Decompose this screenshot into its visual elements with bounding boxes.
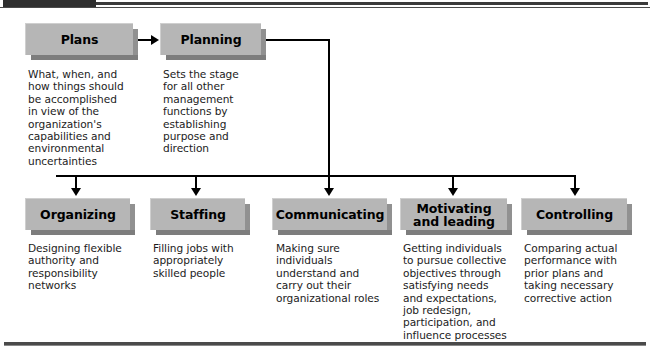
node-planning[interactable]: Planning [160, 23, 261, 55]
node-controlling[interactable]: Controlling [521, 198, 627, 230]
arrow-communicating-icon [324, 188, 334, 196]
page-header-rule [96, 2, 648, 5]
node-motivating-and-leading-description: Getting individuals to pursue collective… [403, 242, 521, 341]
node-planning-description: Sets the stage for all other management … [163, 68, 267, 155]
arrow-controlling-icon [570, 188, 580, 196]
arrow-organizing-icon [71, 188, 81, 196]
page-header-dark-block [3, 0, 96, 7]
node-staffing-label: Staffing [167, 208, 229, 221]
node-organizing-label: Organizing [37, 208, 119, 221]
arrow-motivating-icon [448, 188, 458, 196]
node-staffing-description: Filling jobs with appropriately skilled … [153, 242, 265, 279]
node-controlling-label: Controlling [533, 208, 616, 221]
node-organizing[interactable]: Organizing [25, 198, 130, 230]
node-motivating-and-leading-label: Motivating and leading [410, 202, 498, 228]
arrow-plans-to-planning-icon [151, 35, 159, 45]
node-motivating-and-leading[interactable]: Motivating and leading [400, 198, 507, 230]
node-controlling-description: Comparing actual performance with prior … [524, 242, 642, 304]
node-communicating[interactable]: Communicating [272, 198, 387, 230]
diagram-canvas: Plans Planning What, when, and how thing… [0, 0, 650, 358]
arrow-staffing-icon [191, 188, 201, 196]
page-header-hairline [0, 7, 650, 8]
node-plans[interactable]: Plans [25, 23, 133, 55]
node-plans-label: Plans [58, 33, 102, 46]
node-organizing-description: Designing flexible authority and respons… [28, 242, 148, 292]
node-communicating-description: Making sure individuals understand and c… [276, 242, 396, 304]
connector-planning-right [261, 39, 330, 41]
node-communicating-label: Communicating [273, 208, 388, 221]
node-staffing[interactable]: Staffing [150, 198, 245, 230]
page-footer-hairline [4, 345, 646, 346]
node-planning-label: Planning [177, 33, 244, 46]
connector-distribution-bus [56, 175, 576, 177]
connector-planning-down [328, 39, 330, 177]
node-plans-description: What, when, and how things should be acc… [28, 68, 154, 167]
